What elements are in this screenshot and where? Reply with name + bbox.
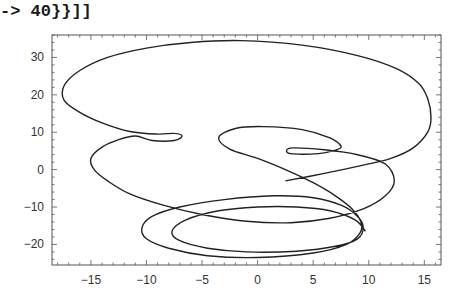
x-tick-label: 0 bbox=[254, 273, 261, 287]
x-tick-label: −5 bbox=[195, 273, 209, 287]
y-tick-label: 10 bbox=[31, 125, 45, 139]
x-tick-label: −10 bbox=[136, 273, 157, 287]
x-tick-label: −15 bbox=[81, 273, 102, 287]
plot-frame bbox=[52, 35, 441, 265]
y-tick-label: −10 bbox=[24, 200, 45, 214]
x-tick-label: 10 bbox=[362, 273, 376, 287]
tick-marks bbox=[52, 35, 441, 265]
series-curve-curve bbox=[62, 41, 431, 258]
series-layer bbox=[62, 41, 431, 258]
y-tick-label: 0 bbox=[37, 163, 44, 177]
x-tick-label: 15 bbox=[418, 273, 432, 287]
y-tick-label: 20 bbox=[31, 88, 45, 102]
parametric-plot: −15−10−5051015 −20−100102030 bbox=[0, 0, 456, 295]
y-tick-label: 30 bbox=[31, 50, 45, 64]
y-tick-labels: −20−100102030 bbox=[24, 50, 45, 251]
x-tick-labels: −15−10−5051015 bbox=[81, 273, 432, 287]
x-tick-label: 5 bbox=[310, 273, 317, 287]
y-tick-label: −20 bbox=[24, 237, 45, 251]
